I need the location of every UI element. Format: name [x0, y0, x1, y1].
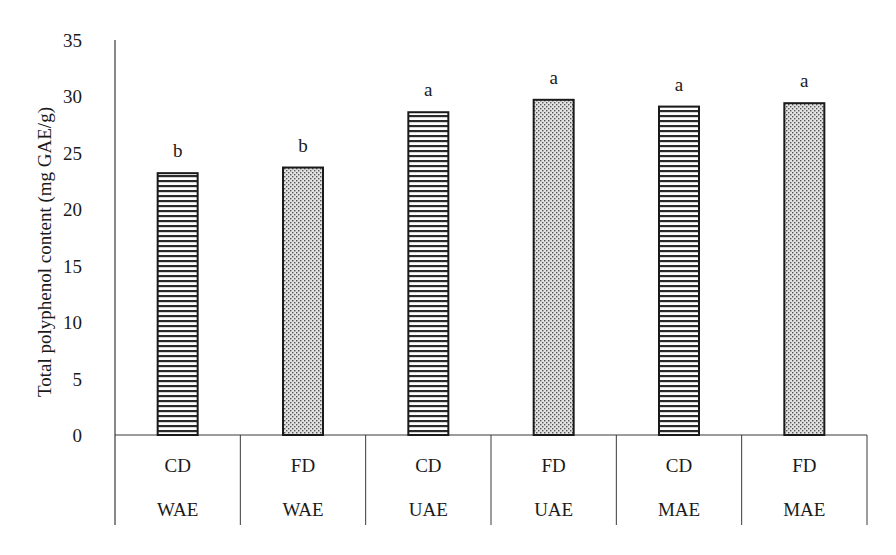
- y-tick-label: 20: [63, 199, 82, 220]
- significance-letter: a: [800, 70, 809, 91]
- category-table: CDWAEFDWAECDUAEFDUAECDMAEFDMAE: [157, 435, 867, 525]
- bar-fd-mae: [784, 103, 824, 435]
- bar-fd-uae: [534, 100, 574, 435]
- y-tick-label: 35: [63, 30, 82, 51]
- category-drying-label: CD: [415, 455, 441, 476]
- y-tick-label: 10: [63, 312, 82, 333]
- significance-letter: a: [424, 79, 433, 100]
- category-drying-label: CD: [164, 455, 190, 476]
- category-extraction-label: WAE: [157, 499, 198, 520]
- category-extraction-label: UAE: [409, 499, 448, 520]
- category-extraction-label: MAE: [783, 499, 825, 520]
- bar-cd-uae: [408, 112, 448, 435]
- y-axis-label: Total polyphenol content (mg GAE/g): [34, 107, 56, 397]
- category-extraction-label: WAE: [282, 499, 323, 520]
- y-tick-label: 25: [63, 143, 82, 164]
- bar-fd-wae: [283, 168, 323, 435]
- y-tick-label: 30: [63, 86, 82, 107]
- y-tick-label: 15: [63, 256, 82, 277]
- category-drying-label: CD: [666, 455, 692, 476]
- category-extraction-label: MAE: [658, 499, 700, 520]
- category-drying-label: FD: [542, 455, 566, 476]
- category-drying-label: FD: [291, 455, 315, 476]
- category-drying-label: FD: [792, 455, 816, 476]
- y-tick-label: 0: [73, 425, 83, 446]
- bar-cd-wae: [158, 173, 198, 435]
- bar-cd-mae: [659, 107, 699, 435]
- y-tick-label: 5: [73, 369, 83, 390]
- bar-chart: Total polyphenol content (mg GAE/g) 0510…: [0, 0, 896, 555]
- significance-letter: a: [549, 67, 558, 88]
- y-axis-ticks: 05101520253035: [63, 30, 82, 446]
- category-extraction-label: UAE: [534, 499, 573, 520]
- significance-letter: a: [675, 74, 684, 95]
- bars-group: bbaaaa: [158, 67, 825, 435]
- significance-letter: b: [173, 140, 183, 161]
- significance-letter: b: [298, 135, 308, 156]
